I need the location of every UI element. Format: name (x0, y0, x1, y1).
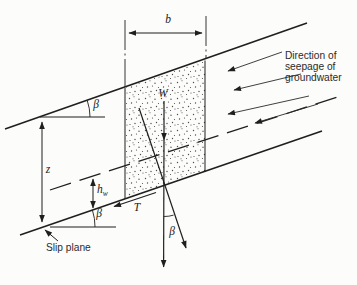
vertical-normal-angle-label: β (168, 225, 175, 238)
width-label: b (165, 13, 171, 25)
diagram-canvas: b z hw β β W β T Direction of seepage of… (0, 0, 357, 285)
infinite-slope-seepage-diagram: b z hw β β W β T Direction of seepage of… (0, 0, 357, 285)
weight-label: W (158, 87, 169, 99)
surface-angle-label: β (92, 98, 99, 111)
seepage-arrow-4 (255, 104, 318, 123)
vertical-normal-angle-arc (164, 215, 174, 216)
shear-force-label: T (134, 201, 142, 213)
slip-angle-arc (92, 210, 95, 227)
water-height-label: hw (97, 183, 108, 198)
slip-angle-label: β (95, 207, 102, 220)
surface-angle-arc (87, 101, 90, 117)
depth-label: z (45, 163, 51, 175)
slip-plane-label: Slip plane (46, 242, 91, 253)
slip-plane-pointer-arrow (45, 230, 58, 241)
seepage-arrow-1 (228, 52, 282, 71)
seepage-caption-line1: Direction of (285, 50, 337, 61)
seepage-arrow-3 (228, 96, 309, 114)
soil-element-stipple (125, 61, 205, 200)
seepage-caption-line3: groundwater (285, 72, 342, 83)
seepage-caption-line2: seepage of (285, 61, 336, 72)
